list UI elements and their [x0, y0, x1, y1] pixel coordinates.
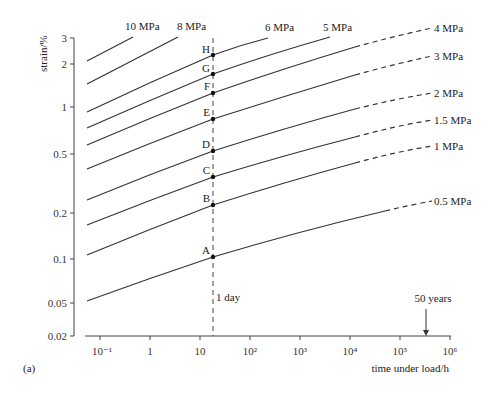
- label-4mpa: 4 MPa: [434, 22, 463, 34]
- curve-10mpa: [87, 37, 133, 61]
- label-10mpa: 10 MPa: [125, 20, 160, 32]
- y-tick-label: 3: [62, 32, 68, 44]
- arrow-head-icon: [423, 330, 429, 336]
- panel-label: (a): [23, 362, 36, 375]
- label-2mpa: 2 MPa: [434, 87, 463, 99]
- marker-label-c: C: [203, 164, 210, 176]
- y-tick-label: 2: [62, 58, 68, 70]
- y-axis: [70, 38, 74, 336]
- marker-b: [211, 203, 215, 207]
- x-tick-label: 10: [195, 345, 207, 357]
- marker-label-g: G: [202, 62, 210, 74]
- y-tick-label: 0.5: [53, 148, 67, 160]
- fifty-years-label: 50 years: [415, 292, 452, 304]
- label-0-5mpa: 0.5 MPa: [434, 195, 471, 207]
- y-tick-label: 0.05: [48, 297, 68, 309]
- curve-2mpa: [87, 109, 355, 200]
- marker-label-e: E: [203, 106, 210, 118]
- y-axis-label: strain/%: [37, 35, 49, 72]
- x-axis: [85, 336, 451, 340]
- marker-e: [211, 117, 215, 121]
- marker-h: [211, 53, 215, 57]
- marker-f: [211, 91, 215, 95]
- curve-1-5mpa-ext: [355, 120, 432, 137]
- curve-4mpa: [87, 47, 355, 145]
- x-tick-label: 1: [147, 345, 153, 357]
- x-axis-label: time under load/h: [371, 362, 449, 374]
- x-tick-label: 10⁻¹: [92, 345, 112, 357]
- curve-0-5mpa: [87, 211, 385, 301]
- label-5mpa: 5 MPa: [323, 21, 352, 33]
- curve-3mpa: [87, 75, 355, 169]
- y-tick-label: 0.1: [53, 253, 67, 265]
- curve-2mpa-ext: [355, 93, 432, 109]
- x-tick-label: 10²: [243, 345, 258, 357]
- marker-c: [211, 175, 215, 179]
- one-day-label: 1 day: [216, 291, 241, 303]
- marker-a: [211, 255, 215, 259]
- x-tick-label: 10⁵: [393, 345, 408, 357]
- x-tick-label: 10³: [293, 345, 308, 357]
- marker-label-h: H: [202, 43, 210, 55]
- y-tick-label: 1: [62, 101, 68, 113]
- y-tick-label: 0.2: [53, 207, 67, 219]
- label-1mpa: 1 MPa: [434, 140, 463, 152]
- curve-0-5mpa-ext: [385, 201, 432, 211]
- label-1-5mpa: 1.5 MPa: [434, 114, 471, 126]
- curve-1mpa-ext: [355, 146, 432, 163]
- label-3mpa: 3 MPa: [434, 50, 463, 62]
- curve-6mpa: [87, 38, 268, 112]
- label-6mpa: 6 MPa: [265, 21, 294, 33]
- creep-strain-chart: 3 2 1 0.5 0.2 0.1 0.05 0.02 10⁻¹ 1 10 10…: [0, 0, 493, 395]
- label-8mpa: 8 MPa: [177, 20, 206, 32]
- y-tick-labels: 3 2 1 0.5 0.2 0.1 0.05 0.02: [48, 32, 68, 342]
- curve-1-5mpa: [87, 137, 355, 225]
- marker-label-a: A: [202, 244, 210, 256]
- marker-d: [211, 149, 215, 153]
- marker-label-b: B: [203, 192, 210, 204]
- x-tick-label: 10⁴: [343, 345, 358, 357]
- marker-label-f: F: [204, 80, 210, 92]
- y-tick-label: 0.02: [48, 330, 67, 342]
- x-tick-labels: 10⁻¹ 1 10 10² 10³ 10⁴ 10⁵ 10⁶: [92, 345, 458, 357]
- x-tick-label: 10⁶: [443, 345, 458, 357]
- curves: [87, 28, 432, 301]
- marker-labels: A B C D E F G H: [202, 43, 210, 256]
- curve-3mpa-ext: [355, 56, 432, 75]
- marker-label-d: D: [202, 138, 210, 150]
- curve-4mpa-ext: [355, 28, 432, 47]
- marker-g: [211, 72, 215, 76]
